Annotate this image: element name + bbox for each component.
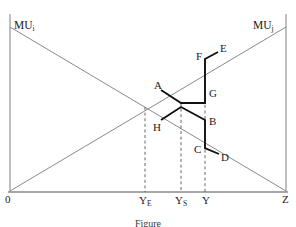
mu-i-text: MU: [14, 19, 33, 31]
point-label-f: F: [196, 51, 202, 62]
figure-drawing: [0, 0, 296, 227]
figure-caption: Figure: [0, 218, 296, 227]
axis-right-label: Z: [282, 194, 289, 205]
x-tick-y-text: Y: [202, 194, 210, 206]
mu-i-label: MUi: [14, 20, 35, 32]
mu-j-label: MUj: [253, 20, 274, 32]
mu-i-subscript: i: [33, 24, 35, 33]
figure-container: MUi MUj A B C D E F G H 0 Z YE YS Y Figu…: [0, 0, 296, 227]
mu-j-subscript: j: [272, 24, 274, 33]
point-label-h: H: [153, 122, 161, 133]
mu-j-text: MU: [253, 19, 272, 31]
axis-origin-label: 0: [5, 194, 11, 205]
point-label-a: A: [154, 80, 162, 91]
x-tick-label-ys: YS: [175, 195, 187, 206]
x-tick-label-y: Y: [202, 195, 210, 206]
x-tick-label-ye: YE: [139, 195, 152, 206]
x-tick-ye-text: Y: [139, 194, 147, 206]
point-label-e: E: [220, 43, 227, 54]
point-label-b: B: [209, 116, 216, 127]
point-label-c: C: [194, 144, 201, 155]
point-label-g: G: [209, 88, 217, 99]
x-tick-ys-subscript: S: [183, 199, 187, 208]
x-tick-ye-subscript: E: [147, 199, 152, 208]
x-tick-ys-text: Y: [175, 194, 183, 206]
point-label-d: D: [221, 152, 229, 163]
